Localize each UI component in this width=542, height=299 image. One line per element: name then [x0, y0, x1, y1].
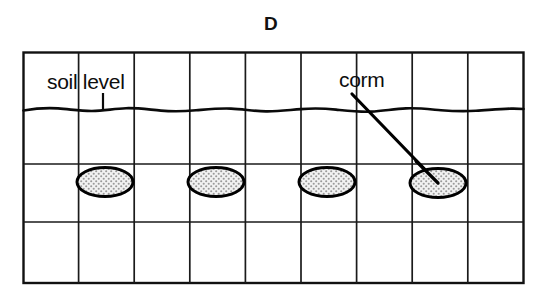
soil-surface-line	[24, 108, 524, 112]
corm-shape	[77, 168, 133, 197]
corm-group	[77, 168, 466, 198]
corm-shape	[299, 168, 355, 197]
corm-label: corm	[339, 69, 384, 90]
corm-planting-diagram: D	[0, 0, 542, 299]
soil-level-label: soil level	[47, 71, 125, 92]
corm-shape	[188, 168, 244, 197]
diagram-canvas	[0, 0, 542, 299]
grid-vertical-lines	[79, 53, 468, 284]
